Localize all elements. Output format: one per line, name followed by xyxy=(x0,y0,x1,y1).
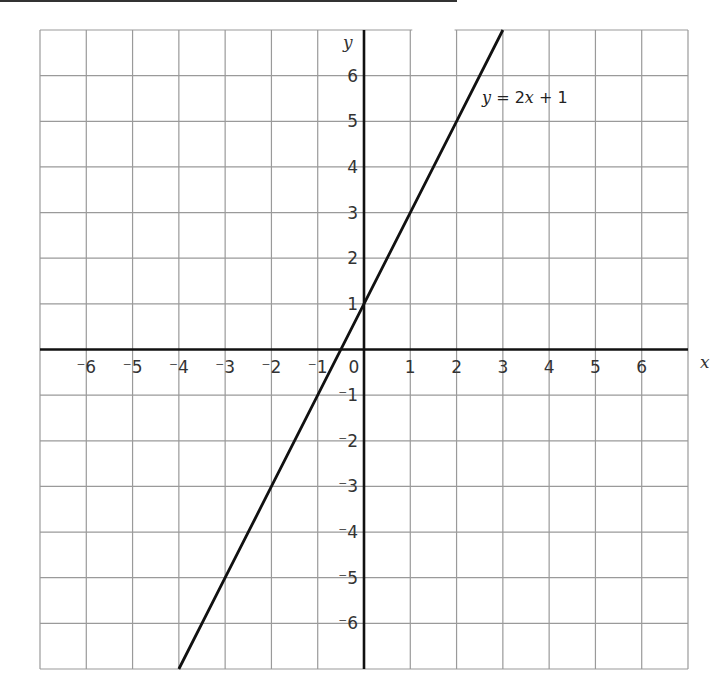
axes xyxy=(40,30,688,669)
equation-label: y = 2x + 1 xyxy=(481,88,568,107)
x-tick-label: 5 xyxy=(590,357,601,377)
y-tick-label: ⁻2 xyxy=(338,431,358,451)
x-tick-label: 2 xyxy=(451,357,462,377)
x-tick-label: 1 xyxy=(405,357,416,377)
y-tick-label: 5 xyxy=(347,111,358,131)
x-axis-label: x xyxy=(700,352,710,372)
y-tick-label: ⁻4 xyxy=(338,522,358,542)
line-graph: ⁻6⁻5⁻4⁻3⁻2⁻10123456⁻6⁻5⁻4⁻3⁻2⁻1123456 y … xyxy=(0,0,717,696)
y-tick-label: ⁻6 xyxy=(338,613,358,633)
x-tick-label: 3 xyxy=(497,357,508,377)
y-axis-label: y xyxy=(342,32,353,52)
border-gap xyxy=(412,28,454,32)
x-tick-label: 6 xyxy=(636,357,647,377)
x-tick-label: ⁻3 xyxy=(215,357,235,377)
x-tick-label: ⁻5 xyxy=(123,357,143,377)
x-tick-label: ⁻6 xyxy=(76,357,96,377)
x-tick-label: ⁻1 xyxy=(308,357,328,377)
x-tick-label: ⁻4 xyxy=(169,357,189,377)
y-tick-label: 3 xyxy=(347,203,358,223)
y-tick-label: 4 xyxy=(347,157,358,177)
y-tick-label: ⁻3 xyxy=(338,476,358,496)
y-tick-label: ⁻1 xyxy=(338,385,358,405)
y-tick-label: 1 xyxy=(347,294,358,314)
y-tick-label: 6 xyxy=(347,66,358,86)
x-tick-label: ⁻2 xyxy=(262,357,282,377)
y-tick-label: 2 xyxy=(347,248,358,268)
x-tick-label: 0 xyxy=(349,357,360,377)
y-tick-label: ⁻5 xyxy=(338,568,358,588)
x-tick-label: 4 xyxy=(544,357,555,377)
